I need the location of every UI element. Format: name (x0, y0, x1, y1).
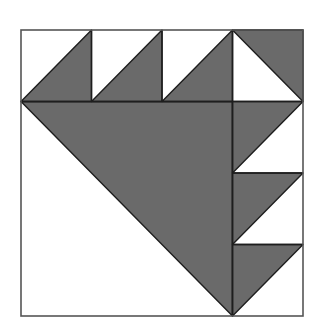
quilt-block-diagram (0, 0, 317, 326)
